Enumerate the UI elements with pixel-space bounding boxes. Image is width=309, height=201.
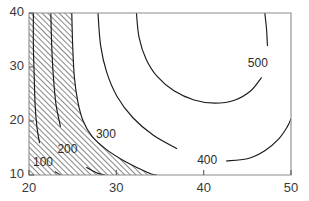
contour-label-200: 200 <box>57 142 77 156</box>
x-tick-label-40: 40 <box>196 180 210 195</box>
contour-label-100: 100 <box>33 155 53 169</box>
y-tick-label-30: 30 <box>10 58 24 73</box>
y-tick-label-40: 40 <box>10 4 24 19</box>
contour-label-300: 300 <box>96 127 116 141</box>
contour-label-400: 400 <box>197 153 217 167</box>
x-tick-label-30: 30 <box>109 180 123 195</box>
contour-plot-figure: 100200300400500 2030405010203040 <box>0 0 309 201</box>
y-tick-label-20: 20 <box>10 112 24 127</box>
x-tick-label-50: 50 <box>284 180 298 195</box>
contour-plot-canvas: 100200300400500 2030405010203040 <box>0 0 309 201</box>
contour-label-500: 500 <box>248 56 268 70</box>
y-tick-label-10: 10 <box>10 166 24 181</box>
x-tick-label-20: 20 <box>22 180 36 195</box>
